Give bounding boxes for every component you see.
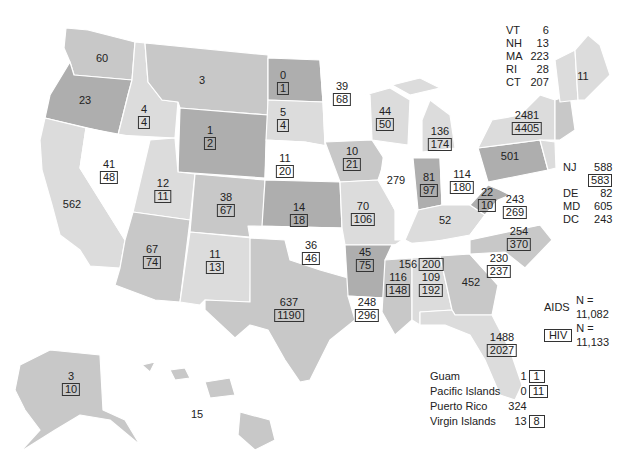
aids-count: 136	[428, 125, 452, 137]
list-row-nh: NH13	[506, 37, 549, 50]
hiv-count: 148	[386, 284, 410, 297]
aids-count: 36	[302, 239, 320, 251]
aids-count: 156	[399, 258, 417, 270]
list-row-nj: NJ588	[563, 161, 612, 174]
aids-count: 23	[79, 94, 91, 106]
aids-count: 70	[351, 200, 375, 212]
aids-count: 12	[154, 177, 171, 189]
label-la: 248296	[355, 296, 379, 322]
label-ak: 310	[62, 370, 80, 396]
legend-aids: AIDSN = 11,082	[544, 293, 626, 321]
label-tx: 6371190	[274, 296, 304, 322]
label-fl: 14882027	[487, 331, 517, 357]
list-row-de: DE82	[563, 187, 612, 200]
hiv-count: 2027	[487, 344, 517, 357]
aids-count: 11	[276, 152, 294, 164]
aids-count: 4	[138, 103, 150, 115]
aids-count: 44	[376, 105, 394, 117]
hiv-count: 13	[206, 261, 224, 274]
list-row-md: MD605	[563, 200, 612, 213]
hiv-count: 269	[503, 206, 527, 219]
hiv-count: 10	[62, 383, 80, 396]
label-ar: 4575	[356, 246, 374, 272]
label-ms: 116148	[386, 271, 410, 297]
legend: AIDSN = 11,082 HIVN = 11,133	[544, 293, 626, 349]
label-ut: 1211	[154, 177, 171, 203]
aids-count: 81	[420, 171, 438, 183]
aids-count: 2481	[512, 109, 542, 121]
aids-count: 230	[487, 252, 511, 264]
state-me	[575, 35, 610, 100]
label-id: 44	[138, 103, 150, 129]
label-ks: 1418	[290, 201, 308, 227]
territory-virgin-islands: Virgin Islands138	[430, 415, 548, 428]
aids-count: 60	[96, 52, 108, 64]
label-az: 6774	[143, 243, 161, 269]
hiv-count: 50	[376, 118, 394, 131]
aids-count: 452	[462, 276, 480, 288]
hiv-count: 11	[154, 190, 171, 203]
label-ne: 1120	[276, 152, 294, 178]
hiv-count: 18	[290, 214, 308, 227]
hiv-count: 1	[277, 82, 289, 95]
aids-count: 11	[206, 248, 224, 260]
northeast-list: VT6 NH13 MA223 RI28 CT207	[506, 24, 549, 89]
midatlantic-list: NJ588 583 DE82 MD605 DC243	[563, 161, 612, 226]
label-ky: 52	[439, 214, 451, 226]
hiv-count: 68	[333, 93, 351, 106]
label-va: 243269	[503, 193, 527, 219]
hiv-count: 174	[428, 138, 452, 151]
aids-count: 14	[290, 201, 308, 213]
label-il: 279	[387, 174, 405, 186]
aids-count: 637	[274, 296, 304, 308]
label-ok: 3646	[302, 239, 320, 265]
hiv-count: 2	[204, 137, 216, 150]
label-co: 3867	[217, 191, 235, 217]
hiv-count: 180	[450, 181, 474, 194]
label-mi: 136174	[428, 125, 452, 151]
label-sc: 230237	[487, 252, 511, 278]
aids-count: 109	[419, 271, 443, 283]
aids-count: 10	[343, 145, 361, 157]
hiv-count: 583	[588, 174, 612, 187]
list-row-nj-hiv: 583	[563, 174, 612, 187]
aids-count: 501	[501, 150, 519, 162]
aids-count: 5	[277, 106, 289, 118]
aids-count: 248	[355, 296, 379, 308]
hiv-count: 106	[351, 213, 375, 226]
hiv-count: 48	[100, 171, 118, 184]
hiv-count: 10	[478, 199, 496, 212]
aids-count: 38	[217, 191, 235, 203]
hiv-count: 97	[420, 184, 438, 197]
label-tn: 156200	[399, 258, 444, 271]
territory-pacific-islands: Pacific Islands011	[430, 385, 548, 398]
hiv-count: 75	[356, 259, 374, 272]
territory-guam: Guam11	[430, 370, 548, 383]
hiv-count: 237	[487, 265, 511, 278]
label-nc: 254370	[507, 225, 531, 251]
aids-count: 1	[204, 124, 216, 136]
aids-count: 39	[333, 80, 351, 92]
hiv-count: 1190	[274, 309, 304, 322]
label-me: 11	[577, 70, 588, 82]
label-oh: 114180	[450, 168, 474, 194]
label-mo: 70106	[351, 200, 375, 226]
label-wi: 4450	[376, 105, 394, 131]
label-or: 23	[79, 94, 91, 106]
aids-count: 279	[387, 174, 405, 186]
hiv-count: 192	[419, 284, 443, 297]
state-vt-nh	[555, 50, 578, 102]
label-wa: 60	[96, 52, 108, 64]
aids-count: 15	[191, 408, 203, 420]
aids-count: 114	[450, 168, 474, 180]
aids-count: 3	[62, 370, 80, 382]
list-row-ma: MA223	[506, 50, 549, 63]
label-wv: 2210	[478, 186, 496, 212]
list-row-dc: DC243	[563, 213, 612, 226]
label-in: 8197	[420, 171, 438, 197]
label-mn: 3968	[333, 80, 351, 106]
state-sd	[266, 100, 325, 146]
state-wy	[178, 108, 268, 178]
aids-count: 0	[277, 69, 289, 81]
label-sd: 54	[277, 106, 289, 132]
